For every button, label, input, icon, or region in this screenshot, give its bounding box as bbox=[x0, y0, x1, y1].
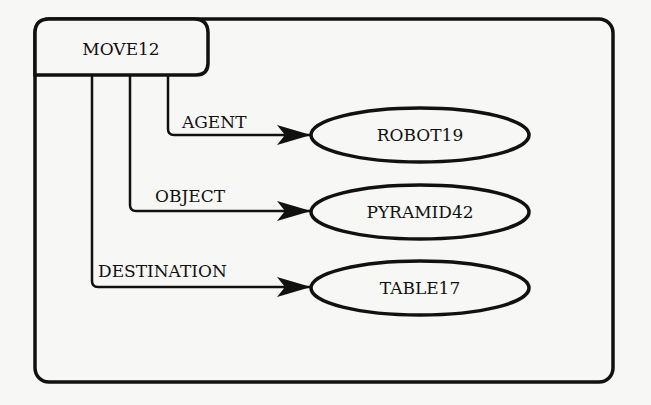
node-pyramid42[interactable]: PYRAMID42 bbox=[311, 185, 529, 239]
node-table17[interactable]: TABLE17 bbox=[311, 261, 529, 315]
node-robot19[interactable]: ROBOT19 bbox=[311, 108, 529, 162]
root-node-move12[interactable]: MOVE12 bbox=[35, 19, 208, 75]
edge-destination[interactable]: DESTINATION bbox=[92, 75, 311, 287]
root-node-label: MOVE12 bbox=[82, 39, 159, 59]
edge-object[interactable]: OBJECT bbox=[130, 75, 311, 211]
node-robot19-label: ROBOT19 bbox=[377, 125, 463, 145]
semantic-network-diagram: MOVE12 AGENT OBJECT DESTINATION ROBOT19 … bbox=[0, 0, 651, 405]
edge-agent[interactable]: AGENT bbox=[168, 75, 311, 135]
edge-destination-line bbox=[92, 75, 311, 287]
edge-object-label: OBJECT bbox=[155, 186, 226, 206]
node-pyramid42-label: PYRAMID42 bbox=[366, 202, 473, 222]
edge-agent-label: AGENT bbox=[181, 112, 247, 132]
node-table17-label: TABLE17 bbox=[380, 278, 461, 298]
edge-destination-label: DESTINATION bbox=[98, 261, 227, 281]
